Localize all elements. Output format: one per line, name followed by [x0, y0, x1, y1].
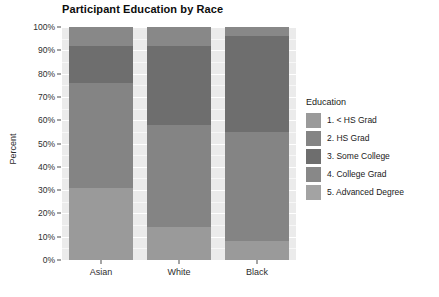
legend-label: 3. Some College — [327, 151, 390, 161]
legend: Education 1. < HS Grad2. HS Grad3. Some … — [306, 97, 436, 201]
legend-item[interactable]: 3. Some College — [306, 147, 436, 165]
x-tick-mark — [257, 260, 258, 264]
bar-series-container — [62, 27, 296, 260]
y-axis-tick-labels: 0%10%20%30%40%50%60%70%80%90%100% — [20, 0, 62, 297]
y-tick-mark — [57, 143, 61, 144]
y-tick-label: 40% — [38, 162, 55, 172]
y-tick-label: 10% — [38, 232, 55, 242]
bar-segment[interactable] — [147, 227, 211, 260]
x-tick-mark — [101, 260, 102, 264]
x-axis-tick-labels: AsianWhiteBlack — [62, 260, 296, 292]
bar-segment[interactable] — [69, 188, 133, 260]
x-tick-label: Asian — [90, 267, 113, 277]
y-tick-mark — [57, 73, 61, 74]
x-tick-label: White — [167, 267, 190, 277]
y-tick-label: 50% — [38, 139, 55, 149]
y-tick-label: 60% — [38, 115, 55, 125]
y-tick-label: 0% — [43, 255, 55, 265]
bar-group-white[interactable] — [147, 27, 211, 260]
legend-item[interactable]: 4. College Grad — [306, 165, 436, 183]
legend-title: Education — [306, 97, 436, 107]
legend-swatch-icon — [306, 131, 321, 146]
legend-swatch-icon — [306, 185, 321, 200]
y-tick-label: 100% — [33, 22, 55, 32]
bar-segment[interactable] — [69, 83, 133, 188]
y-tick-mark — [57, 190, 61, 191]
bar-segment[interactable] — [225, 132, 289, 242]
legend-label: 4. College Grad — [327, 169, 387, 179]
bar-segment[interactable] — [147, 27, 211, 46]
y-tick-mark — [57, 260, 61, 261]
y-tick-mark — [57, 236, 61, 237]
bar-segment[interactable] — [147, 46, 211, 125]
legend-label: 2. HS Grad — [327, 133, 370, 143]
y-tick-label: 80% — [38, 69, 55, 79]
legend-item[interactable]: 2. HS Grad — [306, 129, 436, 147]
bar-segment[interactable] — [69, 27, 133, 46]
y-tick-label: 90% — [38, 45, 55, 55]
bar-segment[interactable] — [225, 27, 289, 36]
y-tick-mark — [57, 213, 61, 214]
y-axis-title-text: Percent — [8, 133, 18, 164]
y-tick-label: 30% — [38, 185, 55, 195]
chart-root: Participant Education by Race Percent 0%… — [0, 0, 439, 297]
legend-swatch-icon — [306, 167, 321, 182]
legend-swatch-icon — [306, 149, 321, 164]
y-tick-mark — [57, 96, 61, 97]
chart-title: Participant Education by Race — [62, 3, 223, 15]
y-tick-mark — [57, 27, 61, 28]
bar-segment[interactable] — [69, 46, 133, 83]
x-tick-label: Black — [246, 267, 268, 277]
y-tick-mark — [57, 50, 61, 51]
legend-items: 1. < HS Grad2. HS Grad3. Some College4. … — [306, 111, 436, 201]
y-tick-mark — [57, 120, 61, 121]
y-tick-label: 70% — [38, 92, 55, 102]
legend-swatch-icon — [306, 113, 321, 128]
plot-panel — [62, 27, 296, 260]
bar-group-asian[interactable] — [69, 27, 133, 260]
bar-segment[interactable] — [147, 125, 211, 228]
y-tick-mark — [57, 166, 61, 167]
bar-segment[interactable] — [225, 241, 289, 260]
y-tick-label: 20% — [38, 208, 55, 218]
legend-item[interactable]: 5. Advanced Degree — [306, 183, 436, 201]
x-tick-mark — [179, 260, 180, 264]
bar-segment[interactable] — [225, 36, 289, 132]
legend-label: 1. < HS Grad — [327, 115, 377, 125]
legend-item[interactable]: 1. < HS Grad — [306, 111, 436, 129]
legend-label: 5. Advanced Degree — [327, 187, 404, 197]
bar-group-black[interactable] — [225, 27, 289, 260]
